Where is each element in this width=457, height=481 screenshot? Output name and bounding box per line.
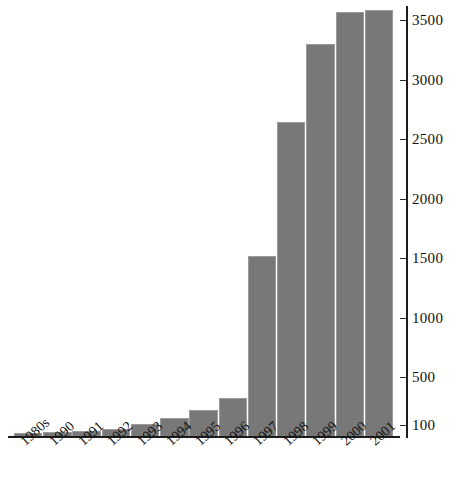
y-tick-label-3000: 3000 [412, 73, 443, 88]
y-tick-label-2500: 2500 [412, 132, 443, 147]
y-tick-3000 [400, 80, 407, 81]
y-tick-2500 [400, 139, 407, 140]
bar-2000 [336, 12, 364, 437]
y-tick-label-100: 100 [412, 418, 435, 433]
y-tick-3500 [400, 20, 407, 21]
y-tick-label-2000: 2000 [412, 192, 443, 207]
y-tick-1500 [400, 258, 407, 259]
x-axis-tick-labels: 1980s19901991199219931994199519961997199… [0, 438, 400, 481]
y-tick-100 [400, 425, 407, 426]
bar-1998 [277, 122, 305, 438]
y-tick-label-500: 500 [412, 370, 435, 385]
bar-2001 [365, 10, 393, 437]
y-tick-label-1500: 1500 [412, 251, 443, 266]
y-axis-line [406, 6, 408, 438]
y-tick-1000 [400, 318, 407, 319]
y-tick-label-3500: 3500 [412, 13, 443, 28]
bar-1999 [306, 44, 334, 437]
bar-1997 [248, 256, 276, 437]
y-tick-2000 [400, 199, 407, 200]
bar-chart: 100500100015002000250030003500 1980s1990… [0, 0, 457, 481]
plot-area [0, 0, 400, 438]
y-tick-500 [400, 377, 407, 378]
y-tick-label-1000: 1000 [412, 311, 443, 326]
